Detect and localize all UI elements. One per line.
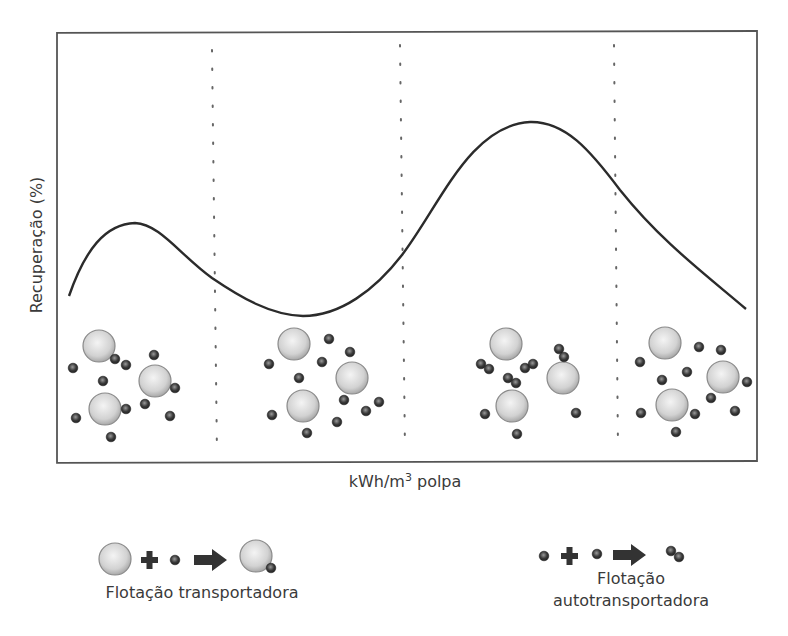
flotation-diagram: Recuperação (%) kWh/m3 polpa Flotação tr… (0, 0, 788, 636)
plus-icon (141, 551, 158, 569)
fine-particle-icon (539, 551, 549, 561)
particles-region-4 (635, 327, 752, 437)
particles-region-1 (68, 330, 180, 442)
x-axis-label-prefix: kWh/m (349, 472, 405, 491)
coarse-particle-icon (99, 543, 131, 575)
fine-particle-icon (266, 563, 276, 573)
legend-right-equation (539, 544, 684, 566)
y-axis-label: Recuperação (%) (27, 177, 46, 314)
particles-region-2 (264, 328, 384, 438)
legend-right-label-line2: autotransportadora (536, 590, 726, 612)
diagram-canvas (0, 0, 788, 636)
legend-right-label-line1: Flotação (536, 568, 726, 590)
legend-right-label: Flotação autotransportadora (536, 568, 726, 612)
x-axis-label-suffix: polpa (412, 472, 461, 491)
arrow-icon (194, 549, 227, 571)
fine-particle-icon (592, 549, 602, 559)
legend-left-label: Flotação transportadora (82, 582, 322, 604)
fine-particle-icon (674, 552, 684, 562)
arrow-icon (613, 544, 646, 566)
plus-icon (561, 547, 578, 565)
x-axis-label: kWh/m3 polpa (349, 471, 462, 491)
fine-particle-icon (170, 555, 180, 565)
recovery-curve (69, 122, 746, 316)
particles-region-3 (476, 328, 581, 439)
legend-left-equation (99, 540, 276, 575)
fine-particle-icon (666, 546, 676, 556)
